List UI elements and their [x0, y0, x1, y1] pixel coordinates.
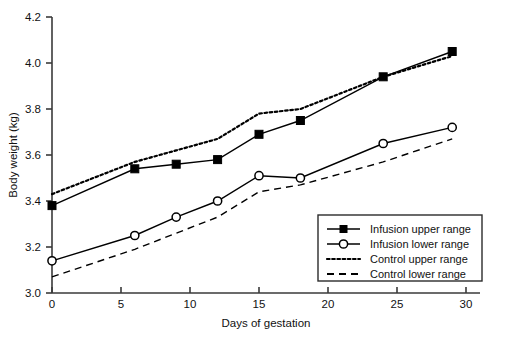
- series-infusion-upper-range: [48, 48, 456, 210]
- y-tick-label: 3.8: [25, 103, 41, 115]
- y-axis-tick-labels: 3.03.23.43.63.84.04.2: [25, 11, 42, 299]
- data-point-marker: [131, 231, 139, 239]
- y-axis-ticks: [46, 17, 52, 293]
- line-chart: 3.03.23.43.63.84.04.2 Body weight (kg) 0…: [0, 0, 506, 343]
- data-point-marker: [448, 123, 456, 131]
- x-axis-ticks: [52, 287, 466, 293]
- data-point-marker: [131, 165, 139, 173]
- x-tick-label: 25: [391, 298, 404, 310]
- legend-marker-open-circle: [339, 240, 347, 248]
- x-tick-label: 5: [118, 298, 124, 310]
- chart-figure: 3.03.23.43.63.84.04.2 Body weight (kg) 0…: [0, 0, 506, 343]
- x-tick-label: 30: [460, 298, 473, 310]
- data-point-marker: [296, 174, 304, 182]
- y-axis: 3.03.23.43.63.84.04.2 Body weight (kg): [7, 11, 52, 299]
- x-axis-tick-labels: 051015202530: [49, 298, 473, 310]
- x-axis: 051015202530 Days of gestation: [49, 287, 480, 329]
- data-point-marker: [255, 130, 263, 138]
- x-tick-label: 15: [253, 298, 266, 310]
- legend-item-label: Control lower range: [370, 268, 466, 280]
- data-point-marker: [172, 160, 180, 168]
- y-tick-label: 4.0: [25, 57, 41, 69]
- data-point-marker: [296, 117, 304, 125]
- y-tick-label: 4.2: [25, 11, 41, 23]
- x-tick-label: 10: [184, 298, 197, 310]
- x-tick-label: 0: [49, 298, 55, 310]
- legend-item-label: Control upper range: [370, 253, 468, 265]
- y-tick-label: 3.2: [25, 241, 41, 253]
- data-point-marker: [214, 156, 222, 164]
- data-point-marker: [379, 139, 387, 147]
- data-point-marker: [172, 213, 180, 221]
- legend-marker-filled-square: [340, 225, 348, 233]
- data-point-marker: [255, 172, 263, 180]
- data-point-marker: [448, 48, 456, 56]
- series-line: [52, 56, 452, 194]
- x-axis-title: Days of gestation: [222, 317, 311, 329]
- y-tick-label: 3.0: [25, 287, 41, 299]
- x-tick-label: 20: [322, 298, 335, 310]
- y-tick-label: 3.4: [25, 195, 42, 207]
- series-line: [52, 52, 452, 206]
- series-control-upper-range: [52, 56, 452, 194]
- chart-legend: Infusion upper rangeInfusion lower range…: [318, 215, 482, 281]
- y-tick-label: 3.6: [25, 149, 41, 161]
- legend-item-label: Infusion lower range: [370, 238, 469, 250]
- data-point-marker: [48, 202, 56, 210]
- data-point-marker: [48, 257, 56, 265]
- data-point-marker: [214, 197, 222, 205]
- legend-item-label: Infusion upper range: [370, 223, 471, 235]
- y-axis-title: Body weight (kg): [7, 112, 19, 198]
